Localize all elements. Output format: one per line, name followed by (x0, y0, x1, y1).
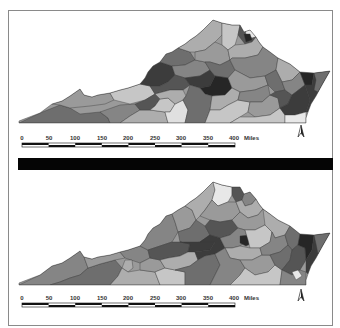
scale-tick-label: 200 (123, 135, 133, 141)
scale-tick-label: 300 (176, 295, 186, 301)
scale-tick-label: 250 (150, 295, 160, 301)
scale-tick-label: 300 (176, 135, 186, 141)
scale-tick-label: 400 (229, 135, 239, 141)
scale-tick-label: 200 (123, 295, 133, 301)
scale-tick-label: 250 (150, 135, 160, 141)
scale-tick-label: 400 (229, 295, 239, 301)
scale-tick-label: 100 (70, 295, 80, 301)
scale-tick-label: 0 (20, 135, 23, 141)
scale-tick-label: 50 (46, 135, 53, 141)
north-arrow-icon (296, 288, 306, 302)
map-panel-top: 0 50 100 150 200 250 300 350 400 Miles (0, 0, 340, 160)
scale-tick-label: 50 (46, 295, 53, 301)
scale-tick-label: 0 (20, 295, 23, 301)
scale-bar-top (22, 143, 235, 147)
scale-tick-label: 100 (70, 135, 80, 141)
scale-tick-label: 350 (203, 295, 213, 301)
scale-tick-label: 150 (97, 295, 107, 301)
map-panel-bottom: 0 50 100 150 200 250 300 350 400 Miles (0, 160, 340, 320)
scale-tick-label: 350 (203, 135, 213, 141)
scale-unit-label: Miles (244, 295, 259, 301)
virginia-map-bottom (0, 160, 340, 328)
north-arrow-icon (296, 124, 306, 138)
scale-tick-label: 150 (97, 135, 107, 141)
scale-bar-bottom (22, 303, 235, 307)
scale-unit-label: Miles (244, 135, 259, 141)
